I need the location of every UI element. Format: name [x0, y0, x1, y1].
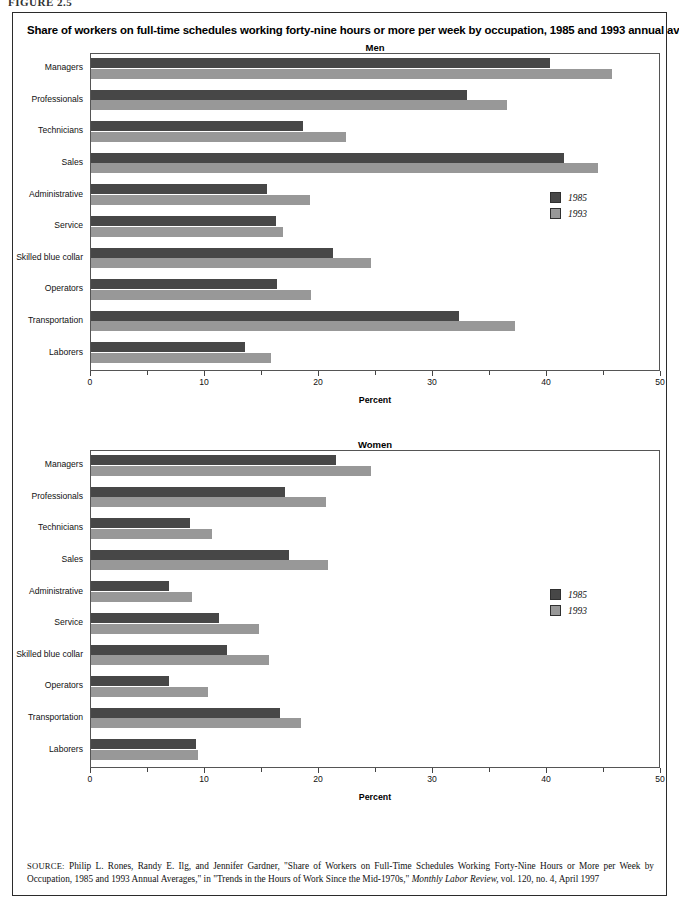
- x-axis-tick: [660, 371, 661, 376]
- category-label: Sales: [62, 554, 84, 564]
- chart-women-legend: 1985 1993: [550, 588, 587, 620]
- bar-1985: [91, 184, 267, 194]
- x-axis-tick: [432, 768, 433, 773]
- x-axis-tick: [603, 768, 604, 772]
- category-label: Operators: [45, 680, 83, 690]
- category-label: Administrative: [29, 586, 83, 596]
- chart-men-title: Men: [90, 42, 660, 53]
- x-axis-tick-label: 30: [427, 774, 437, 784]
- bar-1985: [91, 645, 227, 655]
- category-label: Operators: [45, 283, 83, 293]
- bar-1993: [91, 624, 259, 634]
- bar-1985: [91, 342, 245, 352]
- bar-1985: [91, 613, 219, 623]
- bar-1993: [91, 687, 208, 697]
- bar-1985: [91, 121, 303, 131]
- bar-1985: [91, 216, 276, 226]
- x-axis-tick: [489, 371, 490, 375]
- x-axis-tick: [204, 371, 205, 376]
- bar-1993: [91, 163, 598, 173]
- x-axis-tick: [432, 371, 433, 376]
- x-axis-tick: [147, 371, 148, 375]
- bar-1993: [91, 132, 346, 142]
- bar-1985: [91, 739, 196, 749]
- x-axis-tick: [489, 768, 490, 772]
- figure-number: FIGURE 2.5: [8, 0, 72, 8]
- bar-1993: [91, 321, 515, 331]
- bar-1993: [91, 750, 198, 760]
- x-axis-tick: [204, 768, 205, 773]
- category-label: Service: [54, 617, 83, 627]
- bar-1993: [91, 497, 326, 507]
- bar-1985: [91, 279, 277, 289]
- x-axis-tick-label: 0: [88, 774, 93, 784]
- bar-1993: [91, 227, 283, 237]
- bar-1985: [91, 581, 169, 591]
- bar-1993: [91, 529, 212, 539]
- bar-1985: [91, 708, 280, 718]
- bar-1985: [91, 676, 169, 686]
- bar-1993: [91, 69, 612, 79]
- figure-frame: Share of workers on full-time schedules …: [12, 12, 667, 896]
- legend-entry-1993: 1993: [550, 207, 587, 220]
- x-axis-tick: [546, 371, 547, 376]
- bar-1993: [91, 195, 310, 205]
- category-label: Professionals: [31, 491, 83, 501]
- category-label: Transportation: [28, 315, 83, 325]
- category-label: Administrative: [29, 189, 83, 199]
- category-label: Transportation: [28, 712, 83, 722]
- category-label: Technicians: [38, 522, 83, 532]
- category-label: Laborers: [49, 744, 83, 754]
- category-label: Skilled blue collar: [16, 252, 83, 262]
- chart-men-category-labels: ManagersProfessionalsTechniciansSalesAdm…: [13, 53, 90, 371]
- bar-1985: [91, 248, 333, 258]
- bar-1993: [91, 466, 371, 476]
- legend-swatch-1985: [550, 589, 561, 600]
- x-axis-tick: [318, 371, 319, 376]
- category-label: Service: [54, 220, 83, 230]
- x-axis-tick-label: 40: [541, 774, 551, 784]
- x-axis-tick: [660, 768, 661, 773]
- legend-swatch-1993: [550, 208, 561, 219]
- chart-women-x-axis: 01020304050: [90, 768, 660, 794]
- chart-women-category-labels: ManagersProfessionalsTechniciansSalesAdm…: [13, 450, 90, 768]
- legend-entry-1985: 1985: [550, 191, 587, 204]
- x-axis-tick: [603, 371, 604, 375]
- bar-1985: [91, 90, 467, 100]
- x-axis-tick-label: 40: [541, 377, 551, 387]
- x-axis-tick-label: 10: [199, 377, 209, 387]
- legend-entry-1993: 1993: [550, 604, 587, 617]
- bar-1993: [91, 258, 371, 268]
- x-axis-tick: [375, 768, 376, 772]
- x-axis-tick: [147, 768, 148, 772]
- legend-swatch-1993: [550, 605, 561, 616]
- chart-men: Men ManagersProfessionalsTechniciansSale…: [13, 42, 666, 405]
- x-axis-tick-label: 20: [313, 774, 323, 784]
- category-label: Managers: [45, 62, 83, 72]
- legend-label-1993: 1993: [568, 606, 587, 616]
- legend-entry-1985: 1985: [550, 588, 587, 601]
- bar-1993: [91, 353, 271, 363]
- chart-women-plot-wrap: ManagersProfessionalsTechniciansSalesAdm…: [90, 450, 658, 768]
- bar-1985: [91, 518, 190, 528]
- bar-1993: [91, 560, 328, 570]
- bar-1985: [91, 455, 336, 465]
- bar-1993: [91, 718, 301, 728]
- category-label: Sales: [62, 157, 84, 167]
- x-axis-tick: [90, 768, 91, 773]
- source-note: SOURCE: Philip L. Rones, Randy E. Ilg, a…: [27, 860, 654, 885]
- chart-men-legend: 1985 1993: [550, 191, 587, 223]
- bar-1993: [91, 100, 507, 110]
- bar-1985: [91, 550, 289, 560]
- x-axis-tick-label: 20: [313, 377, 323, 387]
- legend-label-1985: 1985: [568, 590, 587, 600]
- category-label: Managers: [45, 459, 83, 469]
- category-label: Skilled blue collar: [16, 649, 83, 659]
- bar-1985: [91, 311, 459, 321]
- figure-title: Share of workers on full-time schedules …: [13, 13, 666, 36]
- x-axis-tick: [318, 768, 319, 773]
- bar-1985: [91, 58, 550, 68]
- legend-label-1993: 1993: [568, 209, 587, 219]
- chart-men-plot-wrap: ManagersProfessionalsTechniciansSalesAdm…: [90, 53, 658, 371]
- chart-women-title: Women: [90, 439, 660, 450]
